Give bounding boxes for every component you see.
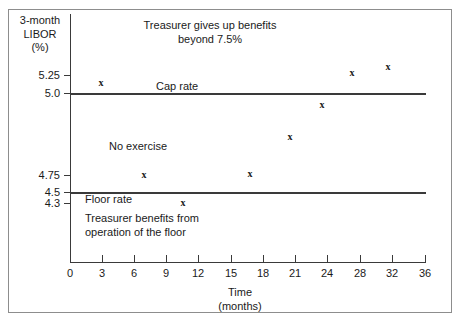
x-axis-title-line-2: (months): [170, 300, 310, 314]
y-tick-mark-5-25: [64, 75, 71, 76]
cap-rate-line: [70, 93, 426, 95]
annotation-above-cap-line-2: beyond 7.5%: [95, 33, 325, 47]
y-tick-label-4-75: 4.75: [12, 170, 60, 181]
x-tick-label-15: 15: [216, 268, 246, 279]
x-tick-mark-15: [231, 255, 232, 262]
y-tick-mark-4-3: [64, 203, 71, 204]
chart-plot-area: 3-month LIBOR (%) 5.25 5.0 4.75 4.5 4.3 …: [0, 0, 461, 331]
x-tick-label-32: 32: [377, 268, 407, 279]
data-point-8: x: [382, 62, 394, 72]
data-point-2: x: [138, 170, 150, 180]
data-point-3: x: [177, 198, 189, 208]
annotation-above-cap-line-1: Treasurer gives up benefits: [95, 19, 325, 33]
x-tick-label-0: 0: [55, 268, 85, 279]
y-tick-label-5-25: 5.25: [12, 70, 60, 81]
annotation-below-floor: Treasurer benefits from operation of the…: [85, 212, 199, 239]
x-tick-label-12: 12: [183, 268, 213, 279]
y-axis-title-line-3: (%): [12, 41, 68, 55]
x-tick-label-24: 24: [312, 268, 342, 279]
cap-rate-label: Cap rate: [156, 80, 198, 94]
x-tick-mark-32: [392, 255, 393, 262]
floor-rate-label: Floor rate: [85, 193, 132, 207]
data-point-7: x: [346, 68, 358, 78]
x-axis-title: Time (months): [170, 286, 310, 313]
annotation-no-exercise: No exercise: [109, 140, 167, 154]
annotation-above-cap: Treasurer gives up benefits beyond 7.5%: [95, 19, 325, 46]
x-tick-label-18: 18: [248, 268, 278, 279]
x-tick-mark-28: [360, 255, 361, 262]
y-axis-line: [70, 14, 71, 262]
x-tick-mark-6: [134, 255, 135, 262]
x-tick-label-28: 28: [345, 268, 375, 279]
y-axis-title-line-2: LIBOR: [12, 28, 68, 42]
annotation-below-floor-line-1: Treasurer benefits from: [85, 212, 199, 226]
x-tick-label-9: 9: [151, 268, 181, 279]
y-axis-title: 3-month LIBOR (%): [12, 14, 68, 55]
x-tick-mark-9: [166, 255, 167, 262]
x-axis-title-line-1: Time: [170, 286, 310, 300]
data-point-1: x: [95, 78, 107, 88]
data-point-5: x: [284, 132, 296, 142]
x-tick-label-3: 3: [87, 268, 117, 279]
annotation-below-floor-line-2: operation of the floor: [85, 226, 199, 240]
figure-page: 3-month LIBOR (%) 5.25 5.0 4.75 4.5 4.3 …: [0, 0, 461, 331]
x-axis-line: [70, 262, 426, 263]
x-tick-label-21: 21: [280, 268, 310, 279]
x-tick-mark-36: [425, 255, 426, 262]
data-point-4: x: [244, 169, 256, 179]
x-tick-label-36: 36: [410, 268, 440, 279]
data-point-6: x: [316, 100, 328, 110]
y-axis-title-line-1: 3-month: [12, 14, 68, 28]
x-tick-mark-3: [102, 255, 103, 262]
x-tick-mark-24: [327, 255, 328, 262]
x-tick-mark-0: [70, 255, 71, 262]
y-tick-mark-4-75: [64, 175, 71, 176]
y-tick-label-5-0: 5.0: [12, 88, 60, 99]
x-tick-mark-18: [263, 255, 264, 262]
x-tick-label-6: 6: [119, 268, 149, 279]
x-tick-mark-12: [198, 255, 199, 262]
x-tick-mark-21: [295, 255, 296, 262]
y-tick-label-4-3: 4.3: [12, 198, 60, 209]
